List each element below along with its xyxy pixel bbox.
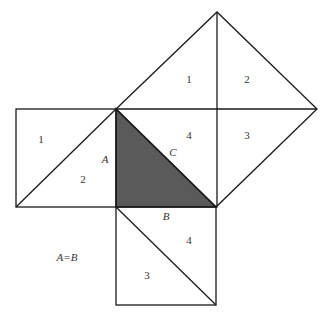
label-equation: A=B [57, 252, 78, 263]
label-bottom-3: 3 [144, 270, 150, 281]
label-side-a: A [102, 154, 109, 165]
label-side-c: C [169, 147, 176, 158]
diagram-lines [0, 0, 326, 315]
label-left-1: 1 [38, 134, 44, 145]
label-bottom-4: 4 [186, 235, 192, 246]
pythagorean-diagram: 1 2 A 1 2 4 3 C B 4 3 A=B [0, 0, 326, 315]
label-hyp-3: 3 [244, 130, 250, 141]
square-b-diagonal [116, 207, 216, 305]
label-hyp-2: 2 [244, 74, 250, 85]
label-hyp-4: 4 [186, 130, 192, 141]
label-left-2: 2 [80, 174, 86, 185]
label-side-b: B [163, 211, 170, 222]
label-hyp-1: 1 [186, 74, 192, 85]
